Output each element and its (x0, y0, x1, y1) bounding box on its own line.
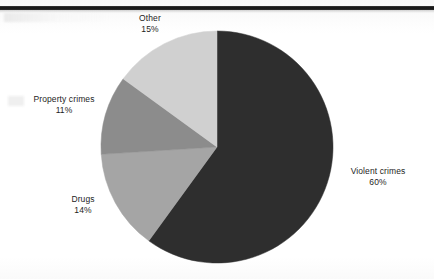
pie-label-drugs-name: Drugs (52, 194, 114, 205)
pie-slices (101, 31, 333, 263)
pie-label-other-percent: 15% (111, 24, 189, 35)
pie-label-violent-crimes: Violent crimes 60% (330, 166, 426, 188)
pie-label-property-crimes: Property crimes 11% (12, 94, 116, 116)
pie-label-other-name: Other (111, 13, 189, 24)
pie-label-other: Other 15% (111, 13, 189, 35)
pie-label-violent-crimes-percent: 60% (330, 177, 426, 188)
pie-label-drugs-percent: 14% (52, 205, 114, 216)
pie-label-drugs: Drugs 14% (52, 194, 114, 216)
pie-label-property-crimes-percent: 11% (12, 105, 116, 116)
pie-label-property-crimes-name: Property crimes (12, 94, 116, 105)
pie-label-violent-crimes-name: Violent crimes (330, 166, 426, 177)
chart-page: Other 15% Property crimes 11% Drugs 14% … (0, 0, 434, 279)
pie-chart-svg (0, 0, 434, 279)
pie-chart: Other 15% Property crimes 11% Drugs 14% … (0, 0, 434, 279)
